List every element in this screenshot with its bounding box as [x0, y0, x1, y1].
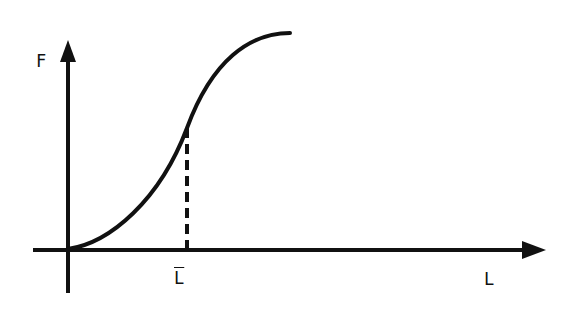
y-axis-label: F [36, 53, 46, 70]
x-axis-arrow-icon [522, 241, 546, 259]
diagram-canvas [0, 0, 570, 315]
x-axis-label: L [484, 271, 494, 288]
sigmoid-diagram: F L L [0, 0, 570, 315]
sigmoid-curve [68, 33, 290, 249]
x-marker-label: L [174, 270, 184, 287]
y-axis-arrow-icon [60, 40, 76, 62]
